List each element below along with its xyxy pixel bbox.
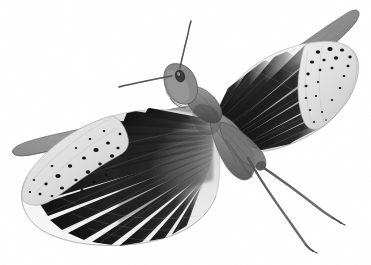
specimen-figure: Black and white photograph of a grasshop… [0, 0, 371, 265]
film-grain-overlay [0, 0, 371, 265]
grasshopper-illustration [0, 0, 371, 265]
